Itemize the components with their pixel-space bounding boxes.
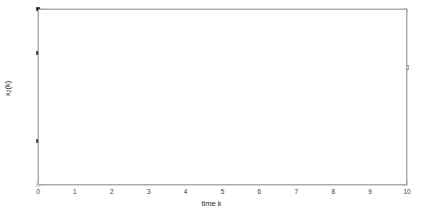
x-tick-label: 2	[100, 189, 124, 196]
x-tick-label: 9	[358, 189, 382, 196]
x-tick-label: 10	[395, 189, 419, 196]
y-axis-label-base: x	[3, 93, 12, 97]
x-tick-label: 6	[247, 189, 271, 196]
x-tick-label: 7	[284, 189, 308, 196]
plot-area	[38, 9, 407, 185]
x-tick-label: 8	[321, 189, 345, 196]
y-axis-label: x2(k)	[3, 64, 12, 114]
x-tick-label: 3	[137, 189, 161, 196]
x-tick-label: 5	[211, 189, 235, 196]
y-axis-label-tail: (k)	[3, 81, 12, 90]
y-axis-label-subscript: 2	[6, 89, 12, 92]
x-tick-label: 0	[26, 189, 50, 196]
x-axis-label: time k	[0, 199, 423, 208]
x-tick-label: 4	[174, 189, 198, 196]
x-tick-label: 1	[63, 189, 87, 196]
figure-canvas: -20-15-10-505101520 012345678910 time k …	[0, 0, 423, 214]
